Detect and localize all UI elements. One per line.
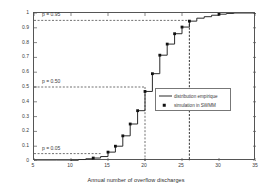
x-tick-label: 10	[67, 163, 73, 168]
y-tick-label: 0.4	[8, 98, 29, 103]
legend-item-simulation: simulation in SWMM	[159, 101, 227, 109]
square-marker-key-icon	[159, 101, 172, 109]
y-tick-label: 0	[8, 158, 29, 163]
simulation-marker	[129, 123, 132, 126]
simulation-marker	[136, 109, 139, 112]
simulation-marker	[151, 72, 154, 75]
annotation-label-p095: p = 0.95	[42, 12, 60, 17]
y-tick-label: 0.1	[8, 143, 29, 148]
x-tick-label: 15	[104, 163, 110, 168]
simulation-marker	[107, 151, 110, 154]
simulation-marker	[173, 32, 176, 35]
y-tick-label: 0.5	[8, 84, 29, 89]
simulation-marker	[121, 134, 124, 137]
simulation-marker	[92, 157, 95, 160]
simulation-marker	[188, 20, 191, 23]
plot-area	[33, 12, 255, 160]
y-tick-label: 0.6	[8, 69, 29, 74]
cdf-chart-figure: CDF 5101520253035 00.10.20.30.40.50.60.7…	[0, 0, 272, 194]
y-tick-label: 0.3	[8, 113, 29, 118]
simulation-marker	[218, 13, 221, 16]
simulation-marker	[144, 90, 147, 93]
legend-label-empirical: distribution empirique	[174, 94, 218, 99]
swmm-simulation-markers	[92, 13, 221, 159]
chart-legend: distribution empirique simulation in SWM…	[155, 88, 231, 111]
y-tick-label: 0.8	[8, 39, 29, 44]
legend-item-empirical: distribution empirique	[159, 92, 227, 100]
y-tick-label: 0.9	[8, 24, 29, 29]
simulation-marker	[181, 26, 184, 29]
x-tick-label: 35	[252, 163, 258, 168]
y-tick-label: 0.2	[8, 128, 29, 133]
simulation-marker	[158, 54, 161, 57]
x-tick-label: 25	[178, 163, 184, 168]
x-axis-title: Annual number of overflow discharges	[0, 177, 272, 183]
annotation-label-p005: p = 0.05	[42, 146, 60, 151]
annotation-label-p05: p = 0.50	[42, 79, 60, 84]
simulation-marker	[114, 145, 117, 148]
y-tick-label: 0.7	[8, 54, 29, 59]
x-tick-label: 30	[215, 163, 221, 168]
x-tick-label: 5	[32, 163, 35, 168]
plot-canvas	[34, 13, 256, 161]
simulation-marker	[166, 43, 169, 46]
x-tick-label: 20	[141, 163, 147, 168]
y-tick-label: 1	[8, 10, 29, 15]
line-key-icon	[159, 92, 172, 100]
legend-label-simulation: simulation in SWMM	[174, 103, 216, 108]
